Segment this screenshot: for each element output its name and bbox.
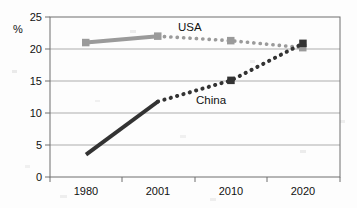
y-axis-tick-labels: 25 20 15 10 5 0: [30, 11, 42, 183]
y-tick-label-10: 10: [30, 107, 42, 119]
y-tick-label-25: 25: [30, 11, 42, 23]
y-axis-unit-label: %: [13, 23, 23, 35]
y-tick-label-5: 5: [36, 139, 42, 151]
series-usa-solid-segment: [86, 36, 158, 42]
x-tick-label-2001: 2001: [146, 185, 170, 197]
series-label-china: China: [196, 94, 227, 106]
series-usa-marker-2001: [154, 32, 162, 40]
y-axis-ticks: [45, 17, 50, 177]
paper-texture: [12, 30, 345, 201]
series-usa: [82, 32, 307, 51]
y-tick-label-0: 0: [36, 171, 42, 183]
series-label-usa: USA: [178, 21, 202, 33]
series-china-dotted-segment: [158, 43, 303, 101]
series-china-marker-2020: [299, 40, 307, 48]
series-china-marker-2010: [227, 77, 235, 85]
series-china-solid-segment: [86, 102, 158, 155]
x-axis-ticks: [50, 177, 340, 182]
series-usa-marker-1980: [82, 39, 90, 47]
chart-container: 25 20 15 10 5 0 % 1980 2001 2010 2020: [0, 0, 357, 208]
x-tick-label-1980: 1980: [74, 185, 98, 197]
series-usa-marker-2010: [227, 37, 235, 45]
x-tick-label-2010: 2010: [219, 185, 243, 197]
y-tick-label-20: 20: [30, 43, 42, 55]
x-tick-label-2020: 2020: [291, 185, 315, 197]
y-tick-label-15: 15: [30, 75, 42, 87]
grid-lines: [50, 49, 340, 145]
x-axis-tick-labels: 1980 2001 2010 2020: [74, 185, 315, 197]
line-chart: 25 20 15 10 5 0 % 1980 2001 2010 2020: [0, 0, 357, 208]
